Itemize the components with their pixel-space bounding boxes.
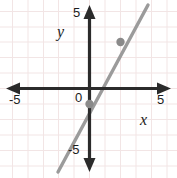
y-axis-arrow-down [84,158,96,172]
y-axis-min-tick-label: -5 [68,143,80,156]
coordinate-plane-figure: 5 -5 5 -5 0 y x [0,0,177,178]
origin-label: 0 [75,91,82,104]
x-axis-name-label: x [140,112,147,128]
graph-canvas [0,0,177,178]
point-y-intercept [85,100,93,108]
y-axis-name-label: y [57,24,64,40]
x-axis-min-tick-label: -5 [9,93,21,106]
x-axis-max-tick-label: 5 [157,93,164,106]
point-on-line [116,38,124,46]
y-axis-max-tick-label: 5 [73,6,80,19]
